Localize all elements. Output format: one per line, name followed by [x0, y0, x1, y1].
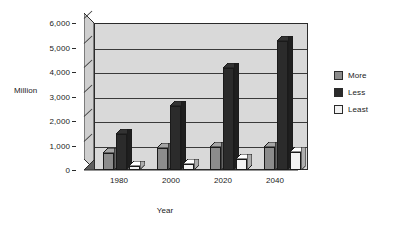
bar-less-2000	[170, 106, 181, 170]
y-tick-3000: 3,000	[38, 93, 76, 102]
legend-item-more: More	[334, 68, 368, 82]
x-tick-2000: 2000	[148, 176, 194, 185]
y-tick-mark	[72, 72, 76, 73]
x-axis-title: Year	[0, 206, 330, 215]
bar-more-2040	[264, 147, 275, 170]
bars-layer	[94, 23, 308, 170]
bar-front-face	[210, 147, 221, 170]
bar-top-face	[277, 36, 288, 41]
y-tick-mark	[72, 48, 76, 49]
bar-top-face	[210, 142, 221, 147]
y-tick-label: 4,000	[49, 68, 70, 77]
bar-top-face	[103, 148, 114, 153]
bar-front-face	[157, 148, 168, 170]
bar-less-2020	[223, 68, 234, 170]
bar-side-face	[140, 161, 145, 170]
y-tick-label: 3,000	[49, 93, 70, 102]
bar-front-face	[183, 164, 194, 170]
bar-front-face	[264, 147, 275, 170]
bar-side-face	[194, 159, 199, 170]
legend-label-more: More	[348, 71, 367, 80]
bar-less-2040	[277, 41, 288, 170]
bar-top-face	[264, 142, 275, 147]
x-tick-label: 2000	[162, 176, 180, 185]
bar-front-face	[170, 106, 181, 170]
bar-front-face	[236, 159, 247, 170]
y-tick-label: 0	[65, 166, 70, 175]
y-tick-mark	[72, 170, 76, 171]
y-tick-5000: 5,000	[38, 44, 76, 53]
bar-less-1980	[116, 134, 127, 170]
legend-swatch-least	[334, 105, 343, 114]
legend-label-least: Least	[348, 105, 368, 114]
x-tick-2020: 2020	[200, 176, 246, 185]
y-tick-0: 0	[38, 166, 76, 175]
y-axis-title: Million	[14, 86, 37, 95]
bar-front-face	[290, 152, 301, 170]
bar-front-face	[116, 134, 127, 170]
bar-top-face	[223, 63, 234, 68]
bar-front-face	[277, 41, 288, 170]
x-tick-1980: 1980	[96, 176, 142, 185]
legend-label-less: Less	[348, 88, 365, 97]
bar-front-face	[103, 153, 114, 170]
bar-top-face	[129, 161, 140, 166]
bar-chart: Million 6,000 5,000 4,000 3,000 2,000	[0, 0, 399, 229]
y-tick-1000: 1,000	[38, 142, 76, 151]
x-tick-label: 1980	[110, 176, 128, 185]
legend-swatch-less	[334, 88, 343, 97]
y-tick-label: 6,000	[49, 19, 70, 28]
y-tick-2000: 2,000	[38, 117, 76, 126]
bar-least-2040	[290, 152, 301, 170]
bar-more-2000	[157, 148, 168, 170]
y-tick-mark	[72, 23, 76, 24]
bar-least-1980	[129, 166, 140, 170]
bar-top-face	[236, 154, 247, 159]
y-tick-mark	[72, 97, 76, 98]
bar-top-face	[170, 101, 181, 106]
bar-more-2020	[210, 147, 221, 170]
bar-front-face	[223, 68, 234, 170]
legend-swatch-more	[334, 71, 343, 80]
y-tick-mark	[72, 121, 76, 122]
legend-item-least: Least	[334, 102, 368, 116]
y-tick-mark	[72, 146, 76, 147]
legend: More Less Least	[334, 68, 368, 119]
bar-side-face	[247, 154, 252, 170]
y-tick-4000: 4,000	[38, 68, 76, 77]
x-tick-label: 2040	[266, 176, 284, 185]
legend-item-less: Less	[334, 85, 368, 99]
bar-more-1980	[103, 153, 114, 170]
y-tick-label: 5,000	[49, 44, 70, 53]
bar-top-face	[116, 129, 127, 134]
bar-least-2000	[183, 164, 194, 170]
y-tick-6000: 6,000	[38, 19, 76, 28]
bar-least-2020	[236, 159, 247, 170]
bar-top-face	[290, 147, 301, 152]
bar-front-face	[129, 166, 140, 170]
bar-top-face	[157, 143, 168, 148]
bar-side-face	[301, 147, 306, 170]
y-tick-label: 1,000	[49, 142, 70, 151]
x-tick-2040: 2040	[252, 176, 298, 185]
y-tick-label: 2,000	[49, 117, 70, 126]
x-tick-label: 2020	[214, 176, 232, 185]
bar-top-face	[183, 159, 194, 164]
